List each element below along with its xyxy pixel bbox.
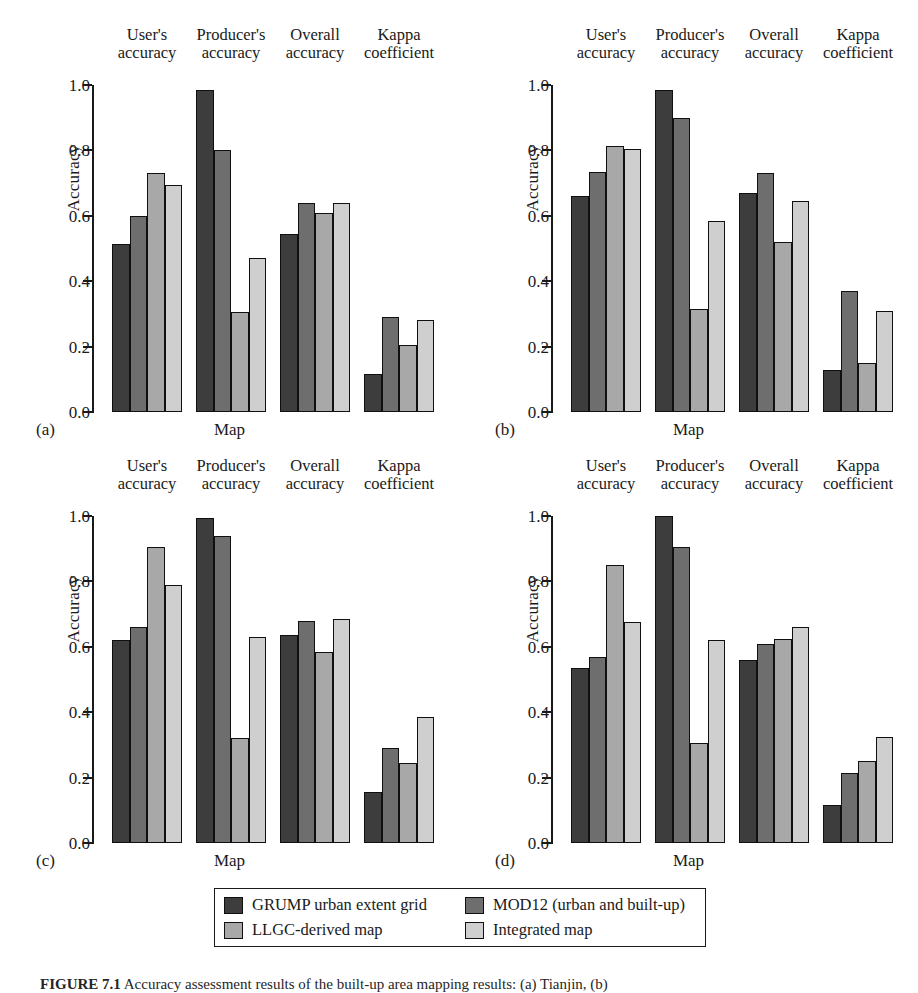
bar [757,644,775,843]
bar [112,640,130,843]
bar [673,118,691,412]
bar [858,761,876,843]
bar [196,518,214,843]
chart-panel-a: 0.00.20.40.60.81.0AccuracyUser'saccuracy… [0,0,459,431]
y-axis-label: Accuracy [523,539,543,679]
bar [147,173,165,412]
y-tick-label: 0.0 [497,835,549,852]
panel-grid: 0.00.20.40.60.81.0AccuracyUser'saccuracy… [0,0,918,862]
legend-item-1: MOD12 (urban and built-up) [465,895,685,915]
group-header-3: Kappacoefficient [809,457,907,493]
y-axis-line [551,85,553,413]
y-tick-label: 0.4 [497,273,549,290]
bar [147,547,165,843]
group-header-3: Kappacoefficient [350,457,448,493]
y-axis-label: Accuracy [523,108,543,248]
chart-panel-d: 0.00.20.40.60.81.0AccuracyUser'saccuracy… [459,431,918,862]
panel-letter: (d) [495,851,515,871]
legend-swatch [224,922,243,939]
y-tick-label: 0.4 [497,704,549,721]
bar [382,317,400,412]
bar [214,150,232,412]
bar [606,565,624,843]
bar [841,291,859,412]
chart-panel-c: 0.00.20.40.60.81.0AccuracyUser'saccuracy… [0,431,459,862]
bar [589,657,607,843]
bar-group-1 [655,516,725,843]
legend-label: LLGC-derived map [252,920,383,940]
group-header-line1: Kappa [809,26,907,44]
legend-swatch [465,922,484,939]
bar [315,652,333,843]
bar [792,627,810,843]
bar [589,172,607,412]
y-tick-label: 1.0 [497,77,549,94]
bar [774,639,792,843]
bar [673,547,691,843]
bar [382,748,400,843]
bar [655,516,673,843]
bar [606,146,624,413]
y-tick-label: 1.0 [38,77,90,94]
group-header-line2: coefficient [350,475,448,493]
bar [876,737,894,843]
bar [399,763,417,843]
x-axis-label: Map [0,851,459,871]
plot-area [571,516,893,843]
bar [417,717,435,843]
legend-item-3: Integrated map [465,920,592,940]
bar [333,619,351,843]
bar [708,221,726,412]
plot-area [112,516,434,843]
bar-group-0 [571,85,641,412]
legend-swatch [224,897,243,914]
bar [858,363,876,412]
y-tick-label: 0.2 [38,769,90,786]
bar [774,242,792,412]
legend-item-0: GRUMP urban extent grid [224,895,427,915]
plot-area [571,85,893,412]
legend-swatch [465,897,484,914]
bar-group-3 [364,516,434,843]
bar [280,234,298,412]
bar-group-1 [196,516,266,843]
plot-area [112,85,434,412]
bar [757,173,775,412]
bar [333,203,351,412]
bar [792,201,810,412]
bar-group-2 [739,516,809,843]
legend-item-2: LLGC-derived map [224,920,383,940]
bar [417,320,435,412]
bar [571,668,589,843]
y-axis-label: Accuracy [64,539,84,679]
group-header-line1: Kappa [809,457,907,475]
bar [315,213,333,412]
legend-label: Integrated map [493,920,592,940]
y-axis-line [92,516,94,844]
y-tick-label: 0.0 [38,835,90,852]
bar [399,345,417,412]
y-tick-label: 1.0 [497,508,549,525]
chart-panel-b: 0.00.20.40.60.81.0AccuracyUser'saccuracy… [459,0,918,431]
bar [249,637,267,843]
bar [690,309,708,412]
bar [280,635,298,843]
y-tick-label: 1.0 [38,508,90,525]
group-header-line2: coefficient [809,475,907,493]
bar-group-3 [364,85,434,412]
bar [165,585,183,843]
group-header-line2: coefficient [350,44,448,62]
bar [130,627,148,843]
bar-group-0 [571,516,641,843]
bar [655,90,673,412]
group-header-line2: coefficient [809,44,907,62]
bar [249,258,267,412]
bar-group-0 [112,85,182,412]
bar-group-2 [280,516,350,843]
bar-group-1 [196,85,266,412]
bar-group-3 [823,516,893,843]
y-axis-line [92,85,94,413]
bar [231,738,249,843]
bar-group-3 [823,85,893,412]
bar [130,216,148,412]
